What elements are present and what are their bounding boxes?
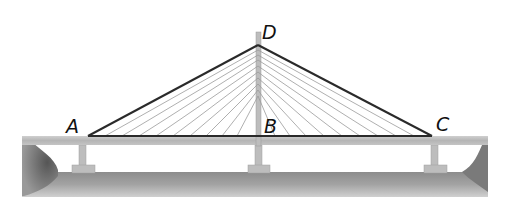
- cables-left: [105, 50, 258, 136]
- point-label-C: C: [436, 115, 449, 134]
- point-label-D: D: [262, 23, 277, 42]
- deck: [22, 136, 488, 145]
- bridge-diagram: A B C D: [0, 0, 508, 204]
- piers: [72, 145, 447, 173]
- cables-right: [258, 50, 414, 136]
- tower: [256, 32, 261, 146]
- point-label-A: A: [66, 117, 79, 136]
- segment-DC: [258, 45, 432, 136]
- bridge-drawing: [0, 0, 508, 204]
- ground: [22, 172, 488, 197]
- point-label-B: B: [264, 117, 277, 136]
